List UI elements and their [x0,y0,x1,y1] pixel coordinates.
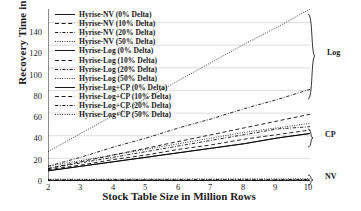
legend-label: Hyrise-Log+CP (20% Delta) [79,101,171,110]
legend-label: Hyrise-Log+CP (10% Delta) [79,92,171,101]
legend-label: Hyrise-Log (20% Delta) [79,65,157,74]
legend-label: Hyrise-Log (0% Delta) [79,46,153,55]
legend-item[interactable]: Hyrise-Log (20% Delta) [54,65,171,74]
legend-line-sample [54,101,76,110]
legend-item[interactable]: Hyrise-NV (50% Delta) [54,37,171,46]
legend-label: Hyrise-Log+CP (50% Delta) [79,110,171,119]
legend-item[interactable]: Hyrise-NV (10% Delta) [54,19,171,28]
legend-item[interactable]: Hyrise-NV (0% Delta) [54,10,171,19]
brace-label-nv: NV [325,172,337,181]
legend-item[interactable]: Hyrise-NV (20% Delta) [54,28,171,37]
brace-label-log: Log [327,48,340,57]
legend-item[interactable]: Hyrise-Log+CP (20% Delta) [54,101,171,110]
legend-line-sample [54,28,76,37]
brace-label-cp: CP [325,130,336,139]
legend-line-sample [54,46,76,55]
y-tick: 40 [16,134,42,143]
legend-item[interactable]: Hyrise-Log (10% Delta) [54,55,171,64]
x-axis-label: Stock Table Size in Million Rows [48,190,310,202]
legend-label: Hyrise-NV (10% Delta) [79,19,155,28]
legend-label: Hyrise-Log+CP (0% Delta) [79,83,167,92]
legend-item[interactable]: Hyrise-Log (0% Delta) [54,46,171,55]
legend-label: Hyrise-NV (50% Delta) [79,37,155,46]
chart-container: Recovery Time in s Stock Table Size in M… [0,0,361,211]
legend-line-sample [54,65,76,74]
legend-line-sample [54,19,76,28]
legend-line-sample [54,110,76,119]
y-tick: 0 [16,177,42,186]
legend-label: Hyrise-NV (20% Delta) [79,28,155,37]
legend-item[interactable]: Hyrise-Log+CP (0% Delta) [54,83,171,92]
legend-label: Hyrise-NV (0% Delta) [79,10,151,19]
legend-line-sample [54,83,76,92]
y-tick: 20 [16,156,42,165]
legend-line-sample [54,92,76,101]
y-axis-label: Recovery Time in s [16,0,28,105]
legend-item[interactable]: Hyrise-Log (50% Delta) [54,74,171,83]
legend-item[interactable]: Hyrise-Log+CP (10% Delta) [54,92,171,101]
legend-item[interactable]: Hyrise-Log+CP (50% Delta) [54,110,171,119]
legend-line-sample [54,56,76,65]
legend-line-sample [54,10,76,19]
legend-label: Hyrise-Log (50% Delta) [79,74,157,83]
chart-legend: Hyrise-NV (0% Delta)Hyrise-NV (10% Delta… [54,10,171,119]
y-tick: 60 [16,113,42,122]
group-braces [306,4,326,190]
legend-line-sample [54,74,76,83]
legend-label: Hyrise-Log (10% Delta) [79,56,157,65]
legend-line-sample [54,37,76,46]
